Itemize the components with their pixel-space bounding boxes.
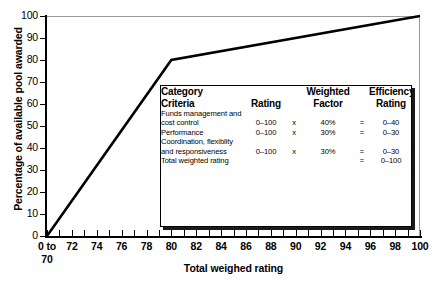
- x-tick-91: [308, 230, 309, 236]
- x-tick-95: [358, 230, 359, 236]
- cell-rating-2: 0–100: [245, 137, 287, 156]
- y-tick-20: [40, 192, 47, 193]
- x-tick-86: [246, 230, 247, 236]
- x-tick-89: [283, 230, 284, 236]
- x-tick-94: [345, 230, 346, 236]
- cell-operator1-3: [287, 156, 301, 165]
- y-tick-100: [40, 16, 47, 17]
- x-tick-92: [321, 230, 322, 236]
- cell-criteria-2: Coordination, flexiblity and responsiven…: [161, 137, 245, 156]
- cell-operator2-1: =: [355, 128, 369, 137]
- y-tick-label-30: 30: [6, 163, 38, 175]
- table-row: Funds management and cost control0–100x4…: [161, 109, 412, 128]
- x-tick-80: [171, 230, 172, 236]
- x-tick-100: [420, 230, 421, 236]
- x-tick-87: [258, 230, 259, 236]
- header-category-criteria: Category Criteria: [161, 86, 245, 109]
- x-tick-75: [109, 230, 110, 236]
- x-axis-title: Total weighed rating: [47, 262, 420, 274]
- y-tick-label-100: 100: [6, 9, 38, 21]
- y-tick-60: [40, 104, 47, 105]
- header-category-line2: Criteria: [161, 98, 245, 110]
- y-tick-label-80: 80: [6, 53, 38, 65]
- x-tick-76: [122, 230, 123, 236]
- x-tick-82: [196, 230, 197, 236]
- y-tick-label-20: 20: [6, 185, 38, 197]
- x-tick-79: [159, 230, 160, 236]
- header-weighted-line2: Factor: [301, 98, 355, 110]
- x-tick-78: [147, 230, 148, 236]
- x-tick-85: [234, 230, 235, 236]
- criteria-table-body: Funds management and cost control0–100x4…: [161, 109, 412, 165]
- cell-criteria-3: Total weighted rating: [161, 156, 245, 165]
- x-tick-71: [59, 230, 60, 236]
- y-tick-label-10: 10: [6, 207, 38, 219]
- cell-operator1-1: x: [287, 128, 301, 137]
- y-tick-label-60: 60: [6, 97, 38, 109]
- y-tick-70: [40, 82, 47, 83]
- cell-weighted-factor-3: [301, 156, 355, 165]
- cell-weighted-factor-0: 40%: [301, 109, 355, 128]
- header-weighted-factor: Weighted Factor: [301, 86, 355, 109]
- header-operator-2: [355, 86, 369, 109]
- cell-rating-3: [245, 156, 287, 165]
- y-tick-label-50: 50: [6, 119, 38, 131]
- y-tick-label-90: 90: [6, 31, 38, 43]
- table-row: Total weighted rating=0–100: [161, 156, 412, 165]
- cell-operator2-3: =: [355, 156, 369, 165]
- table-row: Performance0–100x30%=0–30: [161, 128, 412, 137]
- y-tick-80: [40, 60, 47, 61]
- cell-operator1-0: x: [287, 109, 301, 128]
- x-tick-88: [271, 230, 272, 236]
- y-tick-90: [40, 38, 47, 39]
- x-tick-label-100: 100: [403, 240, 437, 252]
- cell-operator2-2: =: [355, 137, 369, 156]
- cell-efficiency-rating-3: 0–100: [369, 156, 412, 165]
- x-tick-93: [333, 230, 334, 236]
- cell-criteria-1: Performance: [161, 128, 245, 137]
- cell-operator1-2: x: [287, 137, 301, 156]
- y-tick-30: [40, 170, 47, 171]
- x-tick-98: [395, 230, 396, 236]
- x-tick-96: [370, 230, 371, 236]
- x-axis-line: [45, 236, 422, 238]
- x-tick-81: [184, 230, 185, 236]
- cell-weighted-factor-1: 30%: [301, 128, 355, 137]
- y-tick-0: [40, 236, 47, 237]
- x-tick-70: [47, 230, 48, 236]
- header-rating: Rating: [245, 86, 287, 109]
- x-tick-83: [209, 230, 210, 236]
- header-weighted-line1: Weighted: [301, 86, 355, 98]
- x-tick-74: [97, 230, 98, 236]
- cell-efficiency-rating-2: 0–30: [369, 137, 412, 156]
- table-row: Coordination, flexiblity and responsiven…: [161, 137, 412, 156]
- header-category-line1: Category: [161, 86, 245, 98]
- cell-rating-1: 0–100: [245, 128, 287, 137]
- y-tick-50: [40, 126, 47, 127]
- x-tick-90: [296, 230, 297, 236]
- cell-efficiency-rating-1: 0–30: [369, 128, 412, 137]
- header-efficiency-rating: Efficiency Rating: [369, 86, 412, 109]
- x-tick-97: [383, 230, 384, 236]
- cell-rating-0: 0–100: [245, 109, 287, 128]
- cell-weighted-factor-2: 30%: [301, 137, 355, 156]
- x-tick-77: [134, 230, 135, 236]
- header-rating-label: Rating: [245, 98, 287, 110]
- criteria-table-card: Category Criteria Rating Weighted Factor…: [160, 85, 412, 227]
- y-tick-label-70: 70: [6, 75, 38, 87]
- criteria-table: Category Criteria Rating Weighted Factor…: [161, 86, 412, 165]
- table-header-row: Category Criteria Rating Weighted Factor…: [161, 86, 412, 109]
- cell-operator2-0: =: [355, 109, 369, 128]
- y-tick-label-40: 40: [6, 141, 38, 153]
- y-tick-40: [40, 148, 47, 149]
- x-tick-99: [408, 230, 409, 236]
- y-tick-10: [40, 214, 47, 215]
- x-tick-73: [84, 230, 85, 236]
- header-operator-1: [287, 86, 301, 109]
- cell-efficiency-rating-0: 0–40: [369, 109, 412, 128]
- header-efficiency-line1: Efficiency: [369, 86, 412, 98]
- cell-criteria-0: Funds management and cost control: [161, 109, 245, 128]
- x-tick-84: [221, 230, 222, 236]
- header-efficiency-line2: Rating: [369, 98, 412, 110]
- x-tick-72: [72, 230, 73, 236]
